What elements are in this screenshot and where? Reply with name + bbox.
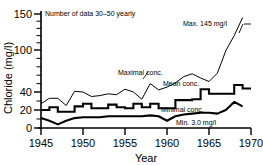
y-tick-label-20: 20 xyxy=(20,104,32,116)
x-tick-label-1945: 1945 xyxy=(29,137,53,149)
minimal-series-label: Minimal conc. xyxy=(161,106,204,113)
y-tick-label-40: 40 xyxy=(20,86,32,98)
max-value-label: Max. 145 mg/l xyxy=(183,20,227,28)
y-axis-title: Chloride (mg/l) xyxy=(2,42,14,114)
x-tick-label-1960: 1960 xyxy=(155,137,179,149)
x-tick-label-1970: 1970 xyxy=(239,137,263,149)
maximal-series-label: Maximal conc. xyxy=(118,69,163,76)
y-tick-label-150: 150 xyxy=(14,8,32,20)
chloride-timeseries-chart: Chloride (mg/l) 150 100 40 20 xyxy=(0,0,263,165)
data-count-note: Number of data 30–50 yearly xyxy=(45,10,136,18)
min-value-label: Min. 3.0 mg/l xyxy=(176,119,217,127)
y-tick-label-100: 100 xyxy=(14,44,32,56)
x-tick-label-1950: 1950 xyxy=(71,137,95,149)
x-tick-label-1955: 1955 xyxy=(113,137,137,149)
chart-svg: Chloride (mg/l) 150 100 40 20 xyxy=(0,0,263,165)
y-tick-label-0: 0 xyxy=(26,122,32,134)
x-tick-label-1965: 1965 xyxy=(197,137,221,149)
x-axis-title: Year xyxy=(135,152,158,164)
mean-series-label: Mean conc. xyxy=(163,80,199,87)
